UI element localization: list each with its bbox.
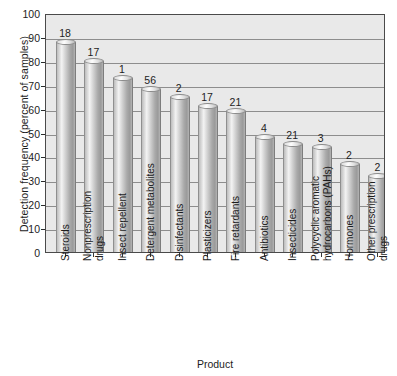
bar-value-label: 21 bbox=[215, 97, 255, 108]
x-tick-label: Insecticides bbox=[287, 209, 299, 261]
y-tick-label: 90 bbox=[14, 33, 40, 43]
bar-value-label: 2 bbox=[329, 150, 369, 161]
x-tick-label: Other prescriptiondrugs bbox=[366, 182, 389, 261]
y-tick-label: 60 bbox=[14, 105, 40, 115]
y-tick-label: 40 bbox=[14, 152, 40, 162]
x-tick-label: Fire retardants bbox=[230, 196, 242, 261]
x-tick-label: Antibiotics bbox=[259, 215, 271, 261]
bar bbox=[56, 42, 76, 252]
bar-top-cap bbox=[368, 173, 385, 179]
x-tick-label: Hormones bbox=[344, 215, 356, 261]
y-tick-label: 30 bbox=[14, 176, 40, 186]
x-tick-label-line: Plasticizers bbox=[202, 210, 214, 261]
x-tick-label-line: Hormones bbox=[344, 215, 356, 261]
bar-value-label: 1 bbox=[102, 64, 142, 75]
bar-top-cap bbox=[226, 108, 246, 114]
gridline bbox=[46, 39, 384, 40]
x-tick-label-line: Steroids bbox=[60, 224, 72, 261]
y-axis-tick-labels: 1009080706050403020100 bbox=[14, 0, 40, 376]
x-tick-label-line: Antibiotics bbox=[259, 215, 271, 261]
y-tick-label: 10 bbox=[14, 224, 40, 234]
x-tick-label-line: Disinfectants bbox=[174, 204, 186, 261]
bar-value-label: 3 bbox=[301, 133, 341, 144]
bar-value-label: 18 bbox=[45, 28, 85, 39]
x-tick-label: Insect repellent bbox=[117, 193, 129, 261]
x-tick-label-line: drugs bbox=[378, 182, 390, 261]
y-tick-label: 100 bbox=[14, 9, 40, 19]
bar-top-cap bbox=[56, 39, 76, 45]
y-tick-label: 70 bbox=[14, 81, 40, 91]
y-tick-label: 0 bbox=[14, 248, 40, 258]
x-tick-label-line: Nonprescription bbox=[82, 191, 94, 261]
x-tick-label-line: Polycyclic aromatic bbox=[310, 166, 322, 261]
y-tick-label: 20 bbox=[14, 200, 40, 210]
x-tick-label: Disinfectants bbox=[174, 204, 186, 261]
x-tick-label: Polycyclic aromatichydrocarbons (PAHs) bbox=[310, 166, 333, 261]
x-tick-label-line: Fire retardants bbox=[230, 196, 242, 261]
x-tick-label: Detergent metabolites bbox=[145, 163, 157, 261]
y-tick-label: 50 bbox=[14, 129, 40, 139]
x-tick-label-line: Insect repellent bbox=[117, 193, 129, 261]
bar-value-label: 17 bbox=[73, 47, 113, 58]
x-tick-label-line: Other prescription bbox=[366, 182, 378, 261]
x-tick-label-line: drugs bbox=[94, 191, 106, 261]
x-tick-label: Plasticizers bbox=[202, 210, 214, 261]
x-tick-label: Nonprescriptiondrugs bbox=[82, 191, 105, 261]
x-tick-label: Steroids bbox=[60, 224, 72, 261]
x-axis-title: Product bbox=[45, 358, 385, 370]
bar-chart: Detection frequency (percent of samples)… bbox=[0, 0, 397, 376]
bar-value-label: 2 bbox=[357, 162, 397, 173]
x-tick-label-line: hydrocarbons (PAHs) bbox=[321, 166, 333, 261]
y-tick-label: 80 bbox=[14, 57, 40, 67]
x-tick-label-line: Insecticides bbox=[287, 209, 299, 261]
x-tick-label-line: Detergent metabolites bbox=[145, 163, 157, 261]
